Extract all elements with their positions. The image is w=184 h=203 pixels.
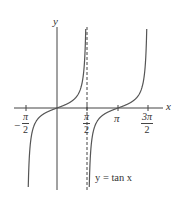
plot-canvas [0,0,184,203]
y-axis-label: y [53,16,58,27]
x-axis-label: x [166,101,171,112]
tick-label-pi: π [114,113,120,124]
tick-label-3pi-half: 3π 2 [141,112,153,135]
tick-label-neg-sign: − [14,119,20,131]
tick-label-neg-pi-half: π 2 [22,112,29,135]
tick-label-pi-half: π 2 [83,112,90,135]
curve-annotation: y = tan x [95,173,132,184]
